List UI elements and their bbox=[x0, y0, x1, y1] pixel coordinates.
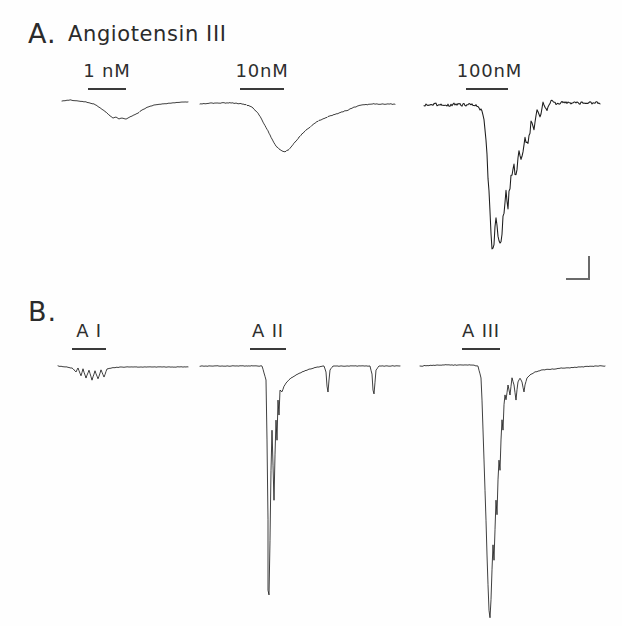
application-bar-10nm bbox=[240, 88, 284, 90]
trace-label-10nm: 10nM bbox=[222, 60, 302, 81]
application-bar-ai bbox=[72, 348, 106, 350]
trace-a-ii bbox=[200, 366, 400, 595]
trace-label-100nm: 100nM bbox=[447, 60, 532, 81]
trace-label-aii: A II bbox=[233, 320, 303, 341]
panel-a-title: Angiotensin III bbox=[68, 22, 227, 46]
scale-bar bbox=[566, 256, 596, 286]
application-bar-aiii bbox=[462, 348, 500, 350]
trace-label-ai: A I bbox=[54, 320, 124, 341]
application-bar-1nm bbox=[88, 88, 126, 90]
trace-a-i bbox=[58, 366, 188, 380]
figure-container: A. Angiotensin III 1 nM 10nM 100nM B. A … bbox=[0, 0, 622, 626]
trace-label-1nm: 1 nM bbox=[67, 60, 147, 81]
trace-10-nm bbox=[200, 103, 395, 152]
trace-100-nm bbox=[424, 100, 600, 249]
trace-canvas bbox=[0, 0, 622, 626]
application-bar-100nm bbox=[466, 88, 508, 90]
trace-1-nm bbox=[62, 100, 188, 119]
trace-a-iii bbox=[420, 365, 605, 618]
scale-bar-horizontal bbox=[566, 278, 590, 280]
scale-bar-vertical bbox=[588, 256, 590, 280]
panel-b-letter: B. bbox=[28, 296, 57, 327]
panel-a-letter: A. bbox=[28, 18, 57, 49]
trace-label-aiii: A III bbox=[446, 320, 516, 341]
application-bar-aii bbox=[250, 348, 286, 350]
